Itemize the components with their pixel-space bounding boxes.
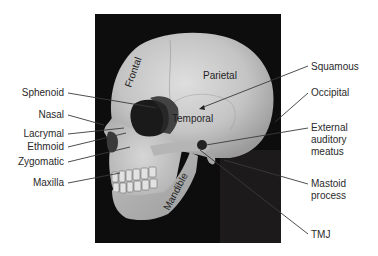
label-external-auditory-meatus-line2: auditory	[311, 134, 347, 145]
photo-background-lower-right	[220, 150, 281, 243]
label-squamous: Squamous	[311, 61, 359, 72]
auditory-meatus	[197, 140, 207, 150]
label-tmj: TMJ	[311, 229, 330, 240]
label-mastoid-process-line1: Mastoid	[311, 178, 346, 189]
label-maxilla: Maxilla	[33, 177, 65, 188]
label-nasal: Nasal	[38, 109, 64, 120]
label-occipital: Occipital	[311, 87, 349, 98]
label-lacrymal: Lacrymal	[23, 128, 64, 139]
label-sphenoid: Sphenoid	[22, 87, 64, 98]
label-ethmoid: Ethmoid	[27, 141, 64, 152]
skull-diagram: Frontal Parietal Temporal Mandible Sphen…	[0, 0, 378, 256]
label-mastoid-process-line2: process	[311, 190, 346, 201]
bone-label-temporal: Temporal	[172, 113, 213, 124]
label-zygomatic: Zygomatic	[18, 156, 64, 167]
label-external-auditory-meatus-line3: meatus	[311, 146, 344, 157]
label-external-auditory-meatus-line1: External	[311, 122, 348, 133]
bone-label-parietal: Parietal	[203, 70, 237, 81]
